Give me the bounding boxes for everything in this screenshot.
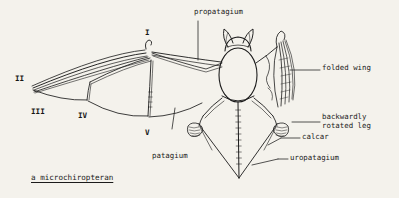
bat-line-drawing (0, 0, 399, 198)
folded-wing-bone-1 (279, 43, 282, 106)
calcar-right-spur (264, 127, 276, 150)
digit-label-iv: IV (78, 111, 87, 120)
bat-head-crease (227, 45, 249, 47)
left-leg-femur (203, 98, 222, 116)
digit-label-v: V (145, 128, 150, 137)
digit-i-thumb (145, 40, 151, 49)
label-backwardly-rotated-leg-line2: rotated leg (322, 121, 371, 130)
right-foot (273, 123, 288, 137)
folded-wing-bone-3 (283, 41, 290, 102)
label-folded-wing: folded wing (322, 64, 371, 73)
left-wing-membrane-mid (88, 101, 148, 116)
digit-label-iii: III (31, 107, 45, 116)
left-foot-toes (189, 127, 200, 136)
uropatagium-right-edge (239, 126, 276, 178)
left-wing-membrane-inner (149, 103, 202, 117)
digit-label-ii: II (15, 74, 24, 83)
digit-iii-bone-2 (35, 60, 149, 93)
bat-ear-left (224, 29, 234, 47)
digit-ii-bone-2 (34, 56, 147, 90)
digit-label-i: I (145, 28, 150, 37)
calcar-left-spur (200, 127, 212, 150)
label-uropatagium: uropatagium (290, 154, 339, 163)
folded-wing-membrane-edge (274, 47, 278, 107)
left-wing-membrane-outer (33, 90, 87, 100)
bat-anatomy-figure: propatagium folded wing backwardly rotat… (0, 0, 399, 198)
right-foot-toes (276, 127, 287, 136)
folded-wing-humerus (256, 47, 277, 63)
label-propatagium: propatagium (194, 8, 243, 17)
label-backwardly-rotated-leg-line1: backwardly (322, 112, 367, 121)
folded-wing-elbow-fold (266, 56, 270, 88)
folded-wing-wrist-fold (268, 88, 273, 100)
bat-torso (219, 48, 257, 102)
uropatagium-left-edge (200, 126, 239, 178)
label-patagium: patagium (152, 152, 188, 161)
label-calcar: calcar (302, 133, 329, 142)
bat-ear-right-inner (249, 33, 250, 43)
right-leg-femur (254, 98, 273, 116)
leader-patagium (172, 108, 175, 129)
bat-ear-right (243, 29, 253, 47)
figure-caption: a microchiropteran (31, 173, 113, 182)
leader-uropatagium (252, 159, 278, 165)
left-foot (187, 123, 202, 137)
digit-iii-bone (34, 57, 148, 92)
